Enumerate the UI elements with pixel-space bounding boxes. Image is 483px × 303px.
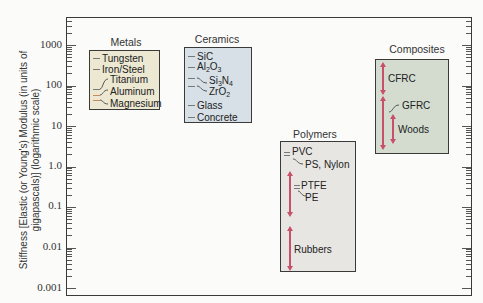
axis-tick <box>466 102 471 103</box>
axis-tick <box>67 167 76 168</box>
axis-tick <box>67 26 72 27</box>
axis-tick <box>67 142 72 143</box>
titanium-marker <box>93 89 100 90</box>
axis-tick <box>466 264 471 265</box>
axis-tick <box>462 45 471 46</box>
axis-tick <box>466 73 471 74</box>
si3n4-marker <box>188 78 195 79</box>
axis-tick <box>466 87 471 88</box>
cfrc-label: CFRC <box>388 73 416 84</box>
axis-tick <box>67 209 72 210</box>
axis-tick <box>67 54 72 55</box>
axis-tick <box>67 183 72 184</box>
axis-tick <box>466 219 471 220</box>
tick-label-100: 100 <box>22 78 62 90</box>
gfrc-range-arrow-icon <box>382 99 384 147</box>
woods-range-arrow-icon <box>392 117 394 141</box>
axis-tick <box>67 98 72 99</box>
axis-tick <box>67 128 72 129</box>
axis-tick <box>466 33 471 34</box>
metals-title: Metals <box>96 36 156 48</box>
axis-tick <box>462 207 471 208</box>
si3n4-leader-icon <box>197 77 209 85</box>
composites-box: CFRC GFRC Woods <box>375 59 449 154</box>
glass-marker <box>188 105 195 106</box>
axis-tick <box>67 179 72 180</box>
axis-tick <box>67 33 72 34</box>
pe-marker <box>294 188 300 189</box>
axis-tick <box>466 54 471 55</box>
cfrc-range-arrow-icon <box>382 65 384 92</box>
axis-tick <box>67 61 72 62</box>
aluminum-leader-icon <box>100 89 110 97</box>
ceramics-title: Ceramics <box>185 33 249 45</box>
ptfe-marker <box>294 185 300 186</box>
axis-tick <box>466 142 471 143</box>
axis-tick <box>67 86 76 87</box>
axis-tick <box>466 47 471 48</box>
axis-tick <box>466 216 471 217</box>
axis-tick <box>466 26 471 27</box>
axis-tick <box>67 288 76 289</box>
composites-title: Composites <box>381 43 453 55</box>
gfrc-leader-icon <box>389 103 401 113</box>
axis-tick <box>67 147 72 148</box>
axis-tick <box>466 276 471 277</box>
axis-tick <box>466 179 471 180</box>
tick-label-10: 10 <box>22 119 62 131</box>
axis-tick <box>466 135 471 136</box>
polymers-title: Polymers <box>282 128 348 140</box>
concrete-marker <box>188 117 195 118</box>
axis-tick <box>466 130 471 131</box>
axis-tick <box>67 223 72 224</box>
zro2-label: ZrO2 <box>209 86 230 100</box>
tick-label-0-001: 0.001 <box>22 281 62 293</box>
ps-nylon-marker <box>284 155 290 156</box>
axis-tick <box>466 154 471 155</box>
axis-tick <box>67 102 72 103</box>
rubbers-label: Rubbers <box>294 244 332 255</box>
metals-box: Tungsten Iron/Steel Titanium Aluminum Ma… <box>89 50 160 110</box>
iron-steel-marker <box>93 69 100 70</box>
concrete-label: Concrete <box>197 112 238 123</box>
axis-tick <box>67 216 72 217</box>
axis-tick <box>67 132 72 133</box>
axis-tick <box>67 173 72 174</box>
al2o3-marker <box>188 67 195 68</box>
axis-tick <box>466 183 471 184</box>
axis-tick <box>466 211 471 212</box>
pvc-label: PVC <box>292 146 313 157</box>
axis-tick <box>67 235 72 236</box>
axis-tick <box>67 269 72 270</box>
axis-tick <box>67 228 72 229</box>
axis-tick <box>67 211 72 212</box>
axis-tick <box>67 87 72 88</box>
axis-tick <box>67 260 72 261</box>
axis-tick <box>466 21 471 22</box>
al2o3-label: Al2O3 <box>197 61 222 75</box>
axis-tick <box>466 92 471 93</box>
axis-tick <box>462 86 471 87</box>
pe-label: PE <box>305 192 318 203</box>
axis-tick <box>67 135 72 136</box>
axis-tick <box>67 248 76 249</box>
axis-tick <box>67 49 72 50</box>
aluminum-label: Aluminum <box>110 86 154 97</box>
axis-tick <box>466 235 471 236</box>
axis-tick <box>67 219 72 220</box>
axis-tick <box>466 254 471 255</box>
axis-tick <box>67 138 72 139</box>
axis-tick <box>67 94 72 95</box>
axis-tick <box>466 132 471 133</box>
axis-tick <box>466 223 471 224</box>
axis-tick <box>67 256 72 257</box>
axis-tick <box>67 73 72 74</box>
axis-tick <box>67 154 72 155</box>
axis-tick <box>67 114 72 115</box>
tick-label-1000: 1000 <box>22 38 62 50</box>
axis-tick <box>466 57 471 58</box>
axis-tick <box>67 207 76 208</box>
axis-tick <box>466 107 471 108</box>
axis-tick <box>462 167 471 168</box>
axis-tick <box>466 98 471 99</box>
